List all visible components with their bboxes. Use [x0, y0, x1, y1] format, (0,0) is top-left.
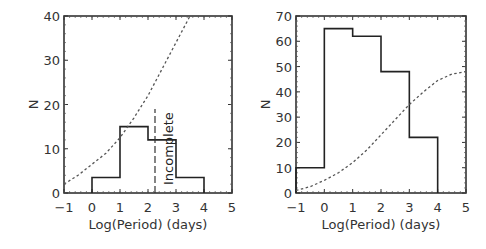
- y-tick-label: 10: [275, 161, 292, 176]
- x-tick-label: 2: [377, 200, 385, 215]
- y-tick-label: 50: [275, 60, 292, 75]
- y-tick-label: 0: [52, 186, 60, 201]
- chart-figure: −1012345010203040IncompleteLog(Period) (…: [0, 0, 486, 249]
- x-tick-label: 0: [88, 200, 96, 215]
- y-tick-label: 40: [275, 85, 292, 100]
- incomplete-label: Incomplete: [161, 112, 176, 185]
- y-tick-label: 40: [43, 9, 60, 24]
- chart-panel-2: −1012345010203040506070Log(Period) (days…: [258, 9, 470, 232]
- y-tick-label: 20: [43, 98, 60, 113]
- y-tick-label: 60: [275, 34, 292, 49]
- x-tick-label: 2: [144, 200, 152, 215]
- y-tick-label: 0: [284, 186, 292, 201]
- x-tick-label: 3: [172, 200, 180, 215]
- x-tick-label: −1: [286, 200, 305, 215]
- y-tick-label: 30: [43, 53, 60, 68]
- y-tick-label: 10: [43, 142, 60, 157]
- x-tick-label: 4: [200, 200, 208, 215]
- x-tick-label: 0: [320, 200, 328, 215]
- x-tick-label: 5: [462, 200, 470, 215]
- x-tick-label: 3: [405, 200, 413, 215]
- y-axis-label: N: [26, 100, 41, 110]
- x-tick-label: 5: [228, 200, 236, 215]
- x-tick-label: 4: [434, 200, 442, 215]
- histogram-steps: [92, 127, 204, 193]
- y-axis-label: N: [258, 100, 273, 110]
- x-axis-label: Log(Period) (days): [89, 217, 208, 232]
- x-tick-label: 1: [349, 200, 357, 215]
- y-tick-label: 70: [275, 9, 292, 24]
- completeness-curve: [296, 72, 466, 191]
- x-tick-label: −1: [54, 200, 73, 215]
- histogram-steps: [296, 29, 438, 193]
- x-tick-label: 1: [116, 200, 124, 215]
- x-axis-label: Log(Period) (days): [322, 217, 441, 232]
- y-tick-label: 20: [275, 135, 292, 150]
- chart-panel-1: −1012345010203040IncompleteLog(Period) (…: [26, 9, 236, 232]
- y-tick-label: 30: [275, 110, 292, 125]
